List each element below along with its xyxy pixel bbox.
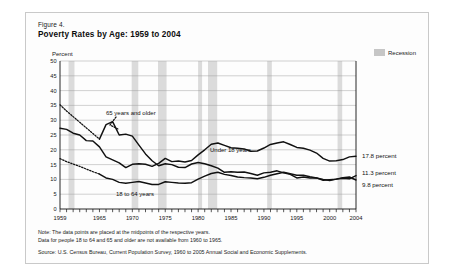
legend: Recession [374,49,416,56]
x-tick-label-1959: 1959 [54,215,67,221]
x-tick-label-2004: 2004 [350,215,364,221]
y-tick-label-35: 35 [50,102,56,108]
y-tick-label-40: 40 [50,88,56,94]
x-tick-label-1990: 1990 [257,215,270,221]
note-line-2: Data for people 18 to 64 and 65 and olde… [38,237,418,245]
x-tick-label-1985: 1985 [225,215,238,221]
y-tick-label-10: 10 [50,176,56,182]
series-annotation-older: 65 years and older [106,110,156,116]
legend-label-recession: Recession [388,50,416,56]
y-tick-label-45: 45 [50,73,56,79]
end-label-under18: 17.8 percent [362,152,397,159]
figure-panel: Figure 4. Poverty Rates by Age: 1959 to … [25,12,429,264]
y-tick-label-20: 20 [50,147,56,153]
y-tick-label-50: 50 [50,58,56,64]
x-tick-label-1975: 1975 [159,215,172,221]
figure-title: Poverty Rates by Age: 1959 to 2004 [38,30,181,39]
y-tick-label-5: 5 [53,191,56,197]
y-tick-label-30: 30 [50,117,56,123]
y-tick-label-25: 25 [50,132,56,138]
note-line-1: Note: The data points are placed at the … [38,229,418,237]
series-annotation-adults: 18 to 64 years [116,191,154,197]
y-tick-label-15: 15 [50,162,56,168]
end-label-older: 11.3 percent [362,169,396,176]
plot-area: 0510152025303540455019591965197019751980… [38,57,418,225]
series-1-interpolated [60,105,99,139]
end-label-adults: 9.8 percent [362,181,393,188]
x-tick-label-2000: 2000 [323,215,336,221]
recession-swatch-icon [374,49,385,56]
poverty-rates-line-chart: 0510152025303540455019591965197019751980… [38,57,418,225]
x-tick-label-1995: 1995 [290,215,303,221]
y-tick-label-0: 0 [53,206,56,212]
x-tick-label-1970: 1970 [126,215,139,221]
series-annotation-under18: Under 18 years [210,147,251,153]
figure-source: Source: U.S. Census Bureau, Current Popu… [38,249,418,255]
series-2-interpolated [60,159,99,174]
figure-number: Figure 4. [38,21,65,28]
figure-notes: Note: The data points are placed at the … [38,229,418,245]
x-tick-label-1980: 1980 [192,215,205,221]
x-tick-label-1965: 1965 [93,215,106,221]
